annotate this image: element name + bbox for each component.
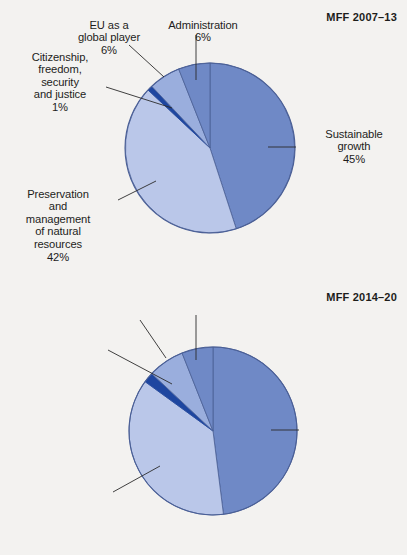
pie-slices-top [125, 63, 295, 233]
label-administration-top-pct: 6% [148, 31, 258, 44]
label-eu-global-pct: 6% [55, 44, 163, 57]
label-administration-top-name: Administration [168, 19, 237, 31]
label-sustainable-growth-top-name: Sustainable growth [325, 128, 382, 153]
label-preservation-natural-resources: Preservation and management of natural r… [2, 175, 114, 276]
label-citizenship-pct: 1% [4, 101, 116, 114]
label-eu-global-name: EU as a global player [78, 19, 140, 44]
slice-smart-inclusive-growth [213, 347, 297, 514]
pie-graphic-bottom [0, 280, 407, 555]
pie-chart-mff-2007-13: MFF 2007–13 [0, 0, 407, 280]
label-preservation-name: Preservation and management of natural r… [26, 188, 90, 250]
label-preservation-pct: 42% [2, 251, 114, 264]
label-sustainable-growth-top-pct: 45% [305, 153, 403, 166]
label-sustainable-growth-top: Sustainable growth 45% [305, 115, 403, 178]
pie-chart-mff-2014-20: MFF 2014–20 [0, 280, 407, 555]
figure-canvas: MFF 2007–13 [0, 0, 407, 555]
label-administration-top: Administration 6% [148, 6, 258, 56]
pie-slices-bottom [129, 347, 297, 515]
label-eu-as-a-global-player: EU as a global player 6% [55, 6, 163, 69]
leader-line-global-europe [140, 320, 166, 358]
